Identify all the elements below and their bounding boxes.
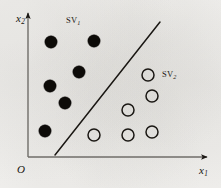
y-axis-label: x2 <box>16 13 25 26</box>
data-point-open <box>122 104 134 116</box>
annotation-sv1: SV1 <box>66 16 81 26</box>
y-axis-label-subscript: 2 <box>21 18 25 26</box>
data-point-filled <box>45 36 57 48</box>
origin-label: O <box>17 164 25 175</box>
data-point-filled <box>59 97 71 109</box>
data-point-open <box>142 69 154 81</box>
data-point-open <box>146 90 158 102</box>
data-point-open <box>88 129 100 141</box>
annotation-sv1-text: SV <box>66 15 77 25</box>
plot-canvas <box>0 0 221 188</box>
separating-hyperplane-line <box>55 22 160 155</box>
data-point-filled <box>73 66 85 78</box>
data-point-open <box>146 126 158 138</box>
data-point-filled <box>88 35 100 47</box>
x-axis-label-subscript: 1 <box>204 170 208 178</box>
data-point-filled <box>39 125 51 137</box>
svm-figure: x2 x1 O SV1 SV2 <box>0 0 221 188</box>
annotation-sv1-subscript: 1 <box>77 20 80 26</box>
annotation-sv2-text: SV <box>162 69 173 79</box>
x-axis-label: x1 <box>199 165 208 178</box>
annotation-sv2-subscript: 2 <box>173 74 176 80</box>
separating-hyperplane <box>55 22 160 155</box>
series-class-filled <box>39 35 100 137</box>
data-point-open <box>122 129 134 141</box>
series-class-open <box>88 69 158 141</box>
annotation-sv2: SV2 <box>162 70 177 80</box>
data-point-filled <box>44 80 56 92</box>
